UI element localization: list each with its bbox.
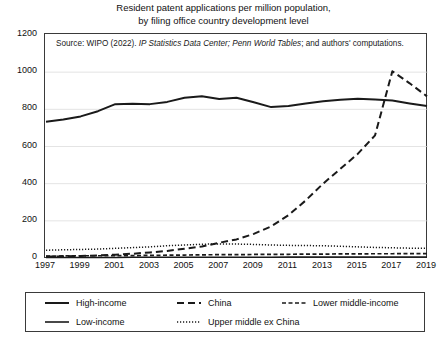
source-note: Source: WIPO (2022). IP Statistics Data … xyxy=(56,38,414,49)
x-axis-tick-labels: 1997199920012003200520072009201120132015… xyxy=(0,260,447,276)
legend-label: China xyxy=(208,298,232,308)
source-note-italic: IP Statistics Data Center; Penn World Ta… xyxy=(139,39,301,48)
legend-row-2: Low-incomeUpper middle ex China xyxy=(26,312,424,331)
x-axis-tick-2015: 2015 xyxy=(340,260,374,270)
x-axis-tick-2003: 2003 xyxy=(132,260,166,270)
legend-item-upper-middle-ex-china[interactable]: Upper middle ex China xyxy=(176,312,300,331)
x-axis-tick-2009: 2009 xyxy=(236,260,270,270)
y-axis-tick-800: 800 xyxy=(0,102,37,112)
chart-title: Resident patent applications per million… xyxy=(0,2,447,27)
data-lines xyxy=(45,34,428,259)
x-axis-tick-2019: 2019 xyxy=(409,260,443,270)
legend-label: High-income xyxy=(76,298,127,308)
legend-item-low-income[interactable]: Low-income xyxy=(44,312,125,331)
x-axis-tick-2017: 2017 xyxy=(374,260,408,270)
y-axis-tick-400: 400 xyxy=(0,177,37,187)
plot-area xyxy=(44,33,427,258)
legend-swatch-solid-thin xyxy=(44,317,70,327)
legend-swatch-dash-short xyxy=(281,298,307,308)
legend-item-high-income[interactable]: High-income xyxy=(44,293,127,312)
legend-swatch-solid-thick xyxy=(44,298,70,308)
y-axis-tick-200: 200 xyxy=(0,214,37,224)
chart-title-line-1: Resident patent applications per million… xyxy=(0,2,447,15)
x-axis-tick-2007: 2007 xyxy=(201,260,235,270)
x-axis-tick-2005: 2005 xyxy=(167,260,201,270)
y-axis-tick-600: 600 xyxy=(0,140,37,150)
legend-label: Lower middle-income xyxy=(313,298,399,308)
legend-label: Upper middle ex China xyxy=(208,317,300,327)
source-note-suffix: ; and authors' computations. xyxy=(301,39,404,48)
chart-legend: High-incomeChinaLower middle-incomeLow-i… xyxy=(25,292,425,332)
series-line-upper-middle-ex-china xyxy=(46,244,427,250)
legend-item-lower-middle-income[interactable]: Lower middle-income xyxy=(281,293,399,312)
y-axis-tick-1200: 1200 xyxy=(0,28,37,38)
y-axis-tick-labels: 020040060080010001200 xyxy=(0,0,44,292)
legend-row-1: High-incomeChinaLower middle-income xyxy=(26,293,424,312)
legend-swatch-dotted xyxy=(176,317,202,327)
x-axis-tick-1997: 1997 xyxy=(28,260,62,270)
y-axis-tick-1000: 1000 xyxy=(0,65,37,75)
chart-figure: Resident patent applications per million… xyxy=(0,0,447,338)
x-axis-tick-2011: 2011 xyxy=(270,260,304,270)
chart-title-line-2: by filing office country development lev… xyxy=(0,15,447,28)
x-axis-tick-2013: 2013 xyxy=(305,260,339,270)
legend-item-china[interactable]: China xyxy=(176,293,232,312)
x-axis-tick-2001: 2001 xyxy=(97,260,131,270)
source-note-prefix: Source: WIPO (2022). xyxy=(56,39,139,48)
x-axis-tick-1999: 1999 xyxy=(63,260,97,270)
legend-swatch-dash-long xyxy=(176,298,202,308)
series-line-high-income xyxy=(46,96,427,121)
legend-label: Low-income xyxy=(76,317,125,327)
